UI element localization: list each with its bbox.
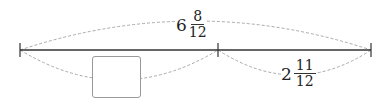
known-denominator: 12	[296, 74, 314, 89]
total-numerator: 8	[191, 9, 204, 25]
total-label: 6 8 12	[176, 9, 207, 40]
total-denominator: 12	[189, 25, 207, 40]
known-fraction: 11 12	[294, 58, 316, 89]
known-part-label: 2 11 12	[281, 58, 316, 89]
known-whole: 2	[281, 64, 292, 84]
known-numerator: 11	[294, 58, 316, 74]
total-fraction: 8 12	[189, 9, 207, 40]
total-whole: 6	[176, 15, 187, 35]
answer-box[interactable]	[92, 56, 141, 98]
